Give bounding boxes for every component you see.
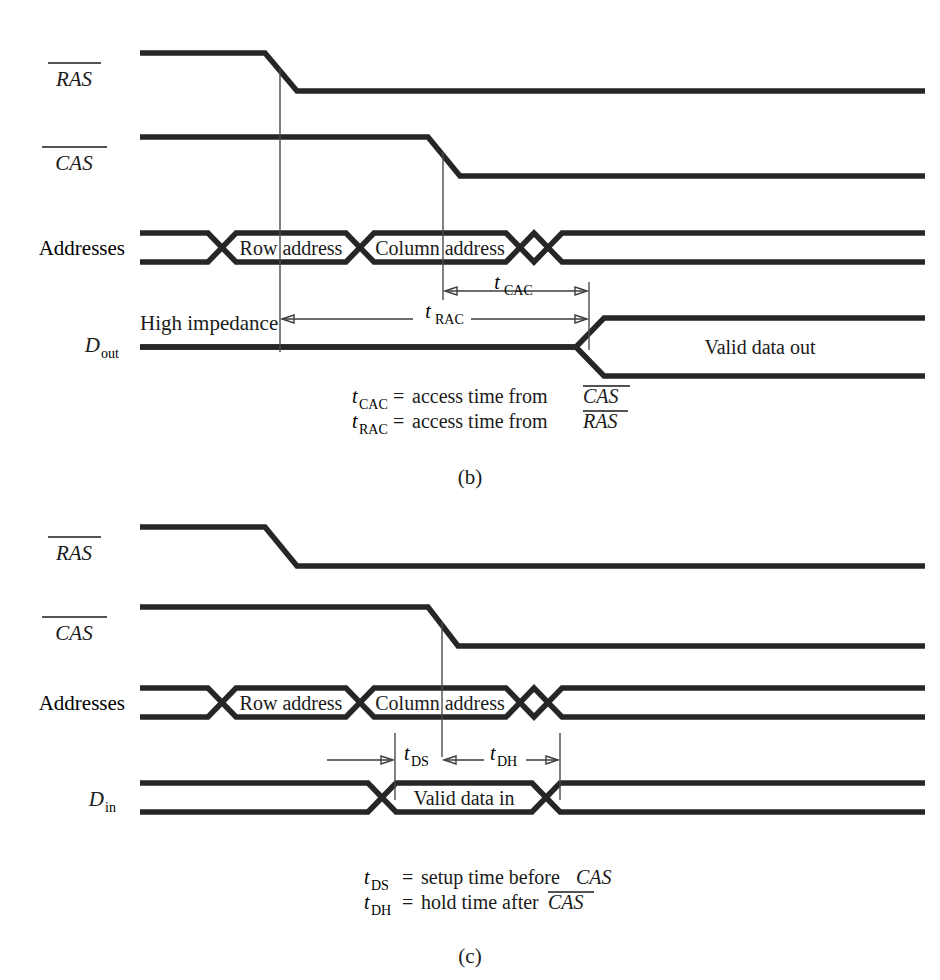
t-dh-subscript-c: DH	[497, 754, 517, 769]
panel-c-legend: t DS = setup time before CAS t DH = hold…	[364, 866, 612, 918]
t-ds-dimension-c: t DS	[327, 742, 429, 769]
legend-b-row1-signal: RAS	[582, 410, 617, 432]
panel-b-signal-cas: CAS	[42, 137, 925, 176]
cas-waveform-c	[140, 607, 925, 646]
legend-b-row1-text: access time from	[412, 410, 548, 432]
column-address-text-b: Column address	[375, 237, 505, 259]
legend-b-row1-symbol: t	[352, 410, 358, 432]
legend-c-row1-signal: CAS	[548, 891, 584, 913]
timing-diagram-figure: RAS CAS Addresses Row address Column add…	[0, 0, 940, 980]
legend-b-row1-subscript: RAC	[359, 422, 388, 437]
legend-c-row1-subscript: DH	[371, 903, 391, 918]
legend-c-row0-signal: CAS	[576, 866, 612, 888]
panel-letter-c: (c)	[458, 944, 481, 968]
panel-c-signal-addresses: Addresses Row address Column address	[39, 688, 925, 717]
legend-c-row0-equals: =	[402, 866, 413, 888]
cas-label-c: CAS	[55, 621, 93, 645]
din-label-c: D	[88, 787, 104, 811]
t-rac-symbol-b: t	[425, 300, 431, 322]
panel-b-signal-ras: RAS	[48, 53, 925, 91]
panel-b-legend: t CAC = access time from CAS t RAC = acc…	[352, 385, 630, 437]
t-ds-symbol-c: t	[404, 742, 410, 764]
panel-b-signal-addresses: Addresses Row address Column address	[39, 233, 925, 262]
t-rac-subscript-b: RAC	[435, 312, 464, 327]
ras-waveform-b	[140, 53, 925, 91]
legend-c-row1-text: hold time after	[421, 891, 539, 913]
legend-c-row0-subscript: DS	[371, 878, 389, 893]
ras-label-c: RAS	[55, 541, 93, 565]
ras-label-b: RAS	[55, 67, 93, 91]
cas-label-b: CAS	[55, 151, 93, 175]
panel-letter-b: (b)	[458, 465, 483, 489]
high-impedance-text-b: High impedance	[140, 311, 278, 335]
legend-b-row1-equals: =	[393, 410, 404, 432]
legend-c-row0-symbol: t	[364, 866, 370, 888]
t-cac-subscript-b: CAC	[504, 283, 533, 298]
row-address-text-c: Row address	[240, 692, 343, 714]
panel-b-signal-dout: D out High impedance Valid data out	[84, 311, 925, 376]
t-cac-dimension-b: t CAC	[445, 271, 587, 298]
panel-b: RAS CAS Addresses Row address Column add…	[39, 53, 925, 489]
t-dh-symbol-c: t	[490, 742, 496, 764]
panel-c-signal-ras: RAS	[48, 527, 925, 566]
timing-diagram-svg: RAS CAS Addresses Row address Column add…	[0, 0, 940, 980]
din-sublabel-c: in	[105, 800, 116, 815]
cas-waveform-b	[140, 137, 925, 176]
legend-b-row0-subscript: CAC	[359, 397, 388, 412]
t-dh-dimension-c: t DH	[444, 742, 558, 773]
valid-data-in-text-c: Valid data in	[413, 787, 514, 809]
column-address-text-c: Column address	[375, 692, 505, 714]
t-ds-subscript-c: DS	[411, 754, 429, 769]
panel-c: RAS CAS Addresses Row address Column add…	[39, 527, 925, 968]
t-rac-dimension-b: t RAC	[282, 300, 587, 332]
legend-b-row0-equals: =	[393, 385, 404, 407]
addresses-label-b: Addresses	[39, 236, 125, 260]
legend-b-row0-text: access time from	[412, 385, 548, 407]
legend-b-row0-symbol: t	[352, 385, 358, 407]
legend-c-row1-symbol: t	[364, 891, 370, 913]
panel-c-signal-cas: CAS	[42, 607, 925, 646]
t-cac-symbol-b: t	[494, 271, 500, 293]
legend-b-row0-signal: CAS	[583, 385, 619, 407]
dout-label-b: D	[84, 333, 100, 357]
ras-waveform-c	[140, 527, 925, 566]
row-address-text-b: Row address	[240, 237, 343, 259]
panel-c-signal-din: D in Valid data in	[88, 783, 925, 815]
valid-data-out-text-b: Valid data out	[704, 336, 816, 358]
dout-sublabel-b: out	[101, 346, 119, 361]
addresses-label-c: Addresses	[39, 691, 125, 715]
legend-c-row0-text: setup time before	[421, 866, 560, 889]
legend-c-row1-equals: =	[402, 891, 413, 913]
